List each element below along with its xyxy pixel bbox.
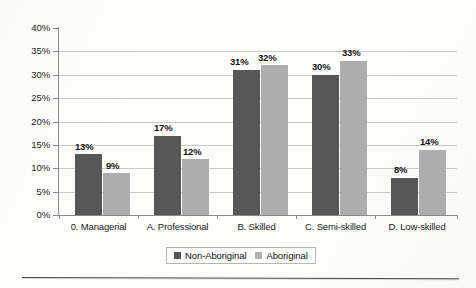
bar-non-aboriginal[interactable] — [312, 75, 339, 215]
y-tick-label: 35% — [20, 45, 50, 56]
bar-group: 8% 14% — [391, 28, 446, 215]
bar-value-label: 9% — [106, 160, 119, 171]
y-axis-labels: 40% 35% 30% 25% 20% 15% 10% 5% 0% — [14, 0, 50, 288]
x-category-label: B. Skilled — [217, 221, 296, 232]
bar-group: 31% 32% — [233, 28, 288, 215]
y-tick-label: 15% — [20, 139, 50, 150]
horizontal-rule — [22, 277, 459, 279]
y-tick-label: 10% — [20, 162, 50, 173]
y-tick-label: 25% — [20, 92, 50, 103]
bar-group: 30% 33% — [312, 28, 367, 215]
bar-aboriginal[interactable] — [182, 159, 209, 215]
bar-non-aboriginal[interactable] — [391, 178, 418, 215]
dark-square-swatch-icon — [174, 252, 181, 259]
x-category-label: C. Semi-skilled — [294, 221, 377, 232]
y-tick-label: 40% — [20, 22, 50, 33]
y-tick-label: 20% — [20, 116, 50, 127]
y-tick-label: 0% — [20, 209, 50, 220]
bar-non-aboriginal[interactable] — [75, 154, 102, 215]
legend-item-aboriginal[interactable]: Aboriginal — [255, 250, 307, 261]
legend-item-non-aboriginal[interactable]: Non-Aboriginal — [174, 250, 246, 261]
y-tick-label: 5% — [20, 186, 50, 197]
bar-value-label: 13% — [75, 141, 93, 152]
grouped-bar-chart: 40% 35% 30% 25% 20% 15% 10% 5% 0% — [0, 0, 476, 288]
bar-aboriginal[interactable] — [103, 173, 130, 215]
legend-label: Non-Aboriginal — [185, 250, 246, 261]
bar-value-label: 12% — [183, 146, 201, 157]
bar-value-label: 14% — [420, 136, 438, 147]
bar-aboriginal[interactable] — [340, 61, 367, 215]
bar-value-label: 30% — [312, 61, 330, 72]
bar-value-label: 32% — [258, 52, 276, 63]
bar-aboriginal[interactable] — [419, 150, 446, 216]
y-tick-label: 30% — [20, 69, 50, 80]
bar-value-label: 33% — [342, 47, 360, 58]
bar-non-aboriginal[interactable] — [233, 70, 260, 215]
bar-group: 17% 12% — [154, 28, 209, 215]
legend-label: Aboriginal — [266, 250, 307, 261]
plot-area: 13% 9% 17% 12% 31% 32% 30% 33% 8 — [59, 28, 457, 215]
bar-value-label: 31% — [230, 56, 248, 67]
x-axis-line — [58, 215, 458, 216]
bar-value-label: 17% — [154, 122, 172, 133]
x-category-label: A. Professional — [138, 221, 217, 232]
light-square-swatch-icon — [255, 252, 262, 259]
bar-aboriginal[interactable] — [261, 65, 288, 215]
x-category-label: D. Low-skilled — [376, 221, 458, 232]
bar-group: 13% 9% — [75, 28, 130, 215]
chart-legend: Non-Aboriginal Aboriginal — [166, 247, 316, 264]
bar-value-label: 8% — [394, 164, 407, 175]
x-category-label: 0. Managerial — [59, 221, 138, 232]
bar-non-aboriginal[interactable] — [154, 136, 181, 216]
